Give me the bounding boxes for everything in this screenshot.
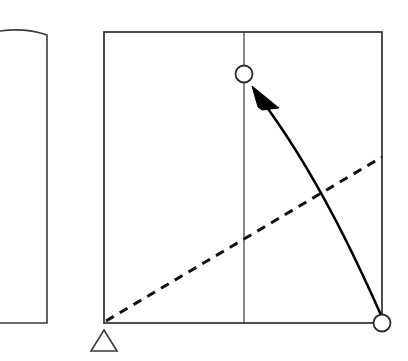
diagram-root (0, 0, 408, 361)
diagram-canvas (0, 0, 408, 361)
joint-circle-bottom-right (374, 315, 391, 332)
left-panel-shape (0, 30, 47, 323)
left-panel-group (0, 30, 47, 323)
joint-circle-top (236, 66, 253, 83)
